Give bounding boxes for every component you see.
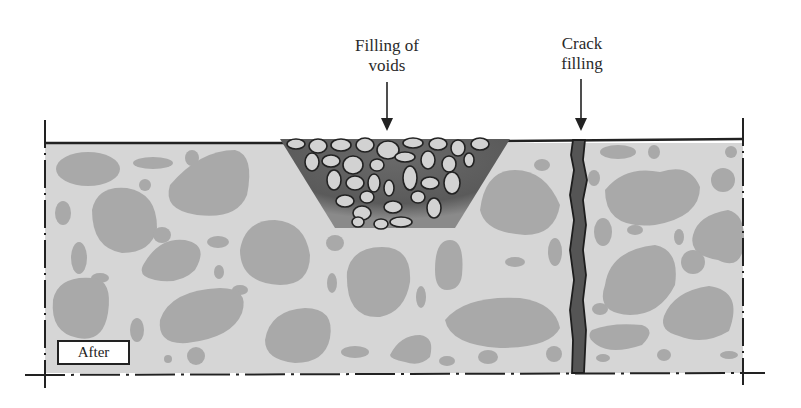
crack-arrow bbox=[575, 79, 587, 131]
voids-arrow bbox=[381, 82, 393, 131]
voids-label-line2: voids bbox=[335, 56, 439, 76]
state-label-after: After bbox=[57, 340, 130, 365]
top-surface-right bbox=[495, 139, 743, 141]
crack-label-line2: filling bbox=[544, 54, 620, 74]
crack-label: Crack filling bbox=[544, 34, 620, 74]
voids-label: Filling of voids bbox=[335, 36, 439, 76]
crack-label-line1: Crack bbox=[544, 34, 620, 54]
diagram-canvas: Filling of voids Crack filling After bbox=[0, 0, 801, 408]
crack-filling bbox=[570, 140, 587, 373]
voids-label-line1: Filling of bbox=[335, 36, 439, 56]
